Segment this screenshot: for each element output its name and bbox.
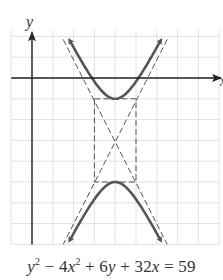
eq-term: y	[27, 257, 35, 276]
eq-term: = 59	[160, 257, 196, 276]
eq-term: + 6	[81, 257, 108, 276]
y-axis-label: y	[24, 13, 34, 31]
eq-term: y	[108, 257, 116, 276]
x-axis-label: x	[219, 74, 223, 89]
eq-term: + 32	[116, 257, 152, 276]
eq-term: − 4	[40, 257, 67, 276]
equation-caption: y2 − 4x2 + 6y + 32x = 59	[0, 256, 223, 277]
grid-lines	[11, 30, 219, 244]
coordinate-axes	[11, 32, 221, 244]
hyperbola-graph: y x	[0, 0, 223, 280]
eq-term: x	[152, 257, 160, 276]
